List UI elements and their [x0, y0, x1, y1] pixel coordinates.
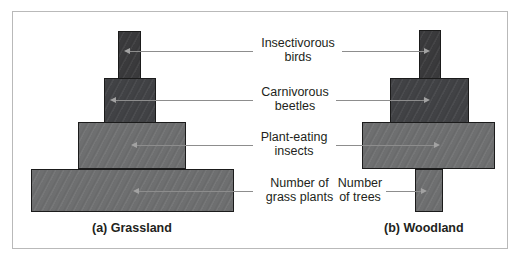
leader-arrow-birds-right — [424, 48, 430, 54]
label-plant-eating-insects: Plant-eating insects — [249, 131, 339, 158]
woodland-bar-insectivorous-birds — [419, 30, 441, 79]
leader-line-insects-left — [137, 145, 253, 146]
pyramid-of-numbers-figure: Insectivorous birds Carnivorous beetles … — [0, 0, 522, 263]
leader-line-grass-plants — [139, 191, 253, 192]
leader-line-insects-right — [336, 145, 436, 146]
leader-line-beetles-right — [336, 100, 426, 101]
leader-arrow-beetles-right — [424, 97, 430, 103]
leader-arrow-insects-right — [434, 142, 440, 148]
leader-line-trees — [386, 191, 423, 192]
label-carnivorous-beetles: Carnivorous beetles — [251, 86, 339, 113]
caption-grassland: (a) Grassland — [92, 221, 172, 235]
label-number-of-trees: Number of trees — [330, 177, 390, 204]
leader-line-birds-right — [342, 51, 426, 52]
leader-line-beetles-left — [116, 100, 253, 101]
grassland-bar-insectivorous-birds — [118, 31, 141, 79]
leader-arrow-trees — [421, 188, 427, 194]
label-insectivorous-birds: Insectivorous birds — [253, 37, 343, 64]
caption-woodland: (b) Woodland — [384, 221, 464, 235]
leader-line-birds-left — [130, 51, 253, 52]
